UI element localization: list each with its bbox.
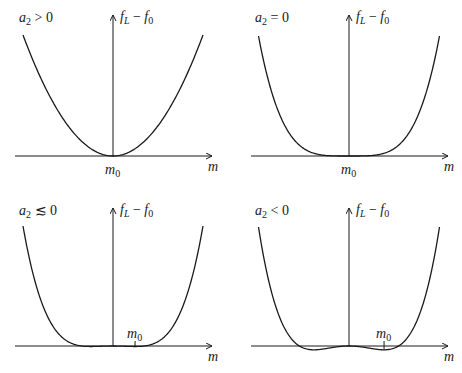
y-axis-label: fL − f0 — [356, 9, 389, 26]
figure: a2 > 0fL − f0mm0 a2 = 0fL − f0mm0 a2 ≲ 0… — [0, 0, 462, 373]
panel-title: a2 > 0 — [19, 10, 53, 27]
panel-a2-slightly-negative: a2 ≲ 0fL − f0mm0 — [15, 202, 218, 364]
panel-a2-negative: a2 < 0fL − f0mm0 — [251, 202, 454, 364]
x-axis-label: m — [208, 349, 218, 364]
y-axis-label: fL − f0 — [120, 202, 153, 219]
panel-a2-zero: a2 = 0fL − f0mm0 — [251, 9, 454, 179]
y-axis-label: fL − f0 — [356, 202, 389, 219]
y-axis-label: fL − f0 — [120, 9, 153, 26]
panel-title: a2 = 0 — [255, 10, 289, 27]
x-axis-label: m — [444, 349, 454, 364]
x-axis-label: m — [444, 159, 454, 174]
panel-a2-positive: a2 > 0fL − f0mm0 — [15, 9, 218, 179]
x-axis-label: m — [208, 159, 218, 174]
m0-label: m0 — [105, 162, 120, 179]
m0-label: m0 — [376, 326, 391, 343]
m0-label: m0 — [341, 162, 356, 179]
panel-title: a2 < 0 — [255, 203, 289, 220]
panel-title: a2 ≲ 0 — [19, 203, 57, 220]
m0-label: m0 — [127, 326, 142, 343]
